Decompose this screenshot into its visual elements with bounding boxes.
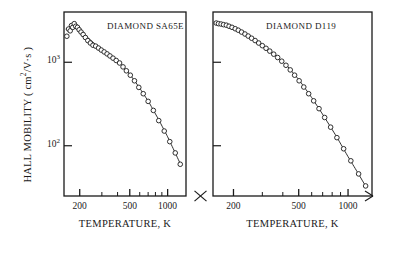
data-point (275, 55, 280, 60)
data-point (141, 91, 146, 96)
figure-root: HALL MOBILITY ( cm2/V·s ) 103 102 DIAMON… (0, 0, 396, 264)
data-point (292, 73, 297, 78)
x-axis-caption-left: TEMPERATURE, K (44, 218, 206, 229)
data-point (284, 63, 289, 68)
panel-frame (213, 12, 372, 196)
y-tick-mantissa: 10 (47, 139, 57, 149)
data-point (65, 34, 70, 39)
data-point (117, 61, 122, 66)
y-axis-units-exponent: 2 (19, 72, 28, 76)
data-point (162, 129, 167, 134)
data-point (356, 172, 361, 177)
data-point (124, 69, 129, 74)
panel-title-left: DIAMOND SA65E (107, 21, 184, 31)
data-point (132, 78, 137, 83)
y-tick-mantissa: 10 (47, 55, 57, 65)
data-point (137, 85, 142, 90)
data-point (178, 162, 183, 167)
data-point (146, 99, 151, 104)
x-tick-label-right-200: 200 (210, 201, 256, 211)
y-tick-exponent: 2 (57, 137, 61, 145)
x-tick-label-right-500: 500 (276, 201, 322, 211)
data-point (301, 85, 306, 90)
y-tick-exponent: 3 (57, 53, 61, 61)
data-point (349, 159, 354, 164)
data-point (121, 65, 126, 70)
data-point (128, 73, 133, 78)
y-axis-label: HALL MOBILITY ( cm2/V·s ) (19, 15, 33, 215)
y-tick-label-1e2: 102 (22, 137, 60, 149)
data-point (173, 151, 178, 156)
x-axis-caption-right: TEMPERATURE, K (203, 218, 382, 229)
fit-curve (215, 23, 366, 187)
data-point (279, 59, 284, 64)
panel-title-right: DIAMOND D119 (266, 21, 336, 31)
data-point (341, 146, 346, 151)
data-point (156, 118, 161, 123)
data-point (271, 52, 276, 57)
data-point (288, 68, 293, 73)
data-point (151, 108, 156, 113)
data-point (311, 99, 316, 104)
x-tick-label-left-200: 200 (57, 201, 103, 211)
data-point (328, 125, 333, 130)
data-point (267, 49, 272, 54)
panel-frame (64, 12, 186, 196)
y-axis-units-open: ( cm (22, 76, 33, 96)
x-tick-label-left-1000: 1000 (145, 201, 191, 211)
data-point (363, 184, 368, 189)
x-tick-label-right-1000: 1000 (325, 201, 371, 211)
fit-curve (66, 26, 181, 165)
data-point (322, 115, 327, 120)
data-point (297, 78, 302, 83)
y-tick-label-1e3: 103 (22, 53, 60, 65)
data-point (317, 106, 322, 111)
data-point (306, 91, 311, 96)
data-point (167, 139, 172, 144)
data-point (335, 135, 340, 140)
